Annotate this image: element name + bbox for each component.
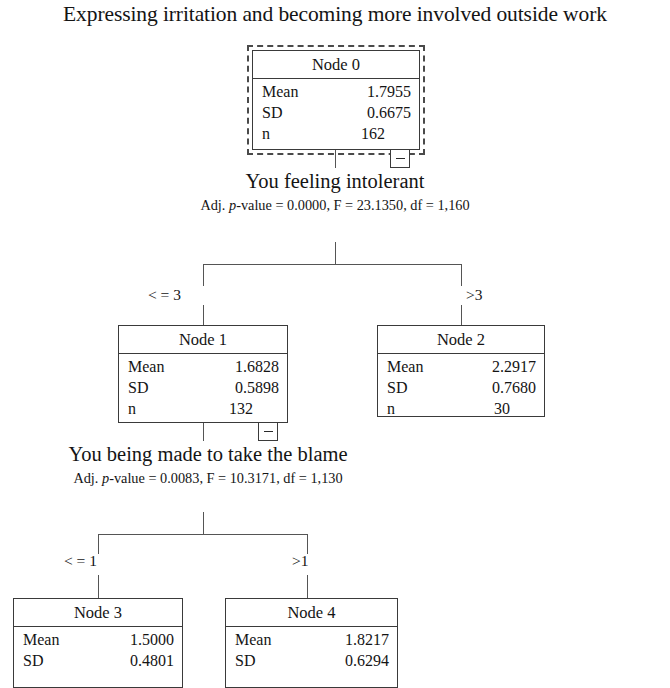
node-4-title: Node 4 — [226, 599, 397, 627]
tree-node-2[interactable]: Node 2 Mean 2.2917 SD 0.7680 n 30 — [377, 325, 545, 417]
node-3-mean-row: Mean 1.5000 — [23, 630, 174, 651]
minus-icon — [396, 158, 405, 159]
page-title: Expressing irritation and becoming more … — [0, 2, 670, 27]
node-1-n-value: 132 — [229, 399, 253, 420]
node-1-sd-row: SD 0.5898 — [128, 378, 279, 399]
connector-split-2-left-drop — [98, 534, 99, 554]
connector-split-2-stem — [203, 512, 204, 534]
node-4-mean-value: 1.8217 — [345, 630, 389, 651]
node-2-sd-row: SD 0.7680 — [387, 378, 536, 399]
connector-split-2-bar — [98, 534, 308, 535]
sd-label: SD — [387, 378, 407, 399]
node-1-stats: Mean 1.6828 SD 0.5898 n 132 — [119, 354, 287, 422]
minus-icon — [264, 431, 273, 432]
node-1-n-row: n 132 — [128, 399, 279, 420]
node-0-n-value: 162 — [361, 124, 385, 145]
node-3-sd-row: SD 0.4801 — [23, 651, 174, 672]
split-1-stats-prefix: Adj. — [200, 197, 229, 213]
node-3-stats: Mean 1.5000 SD 0.4801 — [14, 627, 182, 674]
node-4-stats: Mean 1.8217 SD 0.6294 — [226, 627, 397, 674]
node-0-n-row: n 162 — [262, 124, 411, 145]
node-2-title: Node 2 — [378, 326, 544, 354]
split-2-stats-rest: -value = 0.0083, F = 10.3171, df = 1,130 — [109, 470, 342, 486]
node-2-sd-value: 0.7680 — [492, 378, 536, 399]
connector-to-node-1 — [203, 305, 204, 325]
mean-label: Mean — [235, 630, 271, 651]
split-1-variable: You feeling intolerant — [135, 170, 535, 194]
node-4-sd-row: SD 0.6294 — [235, 651, 389, 672]
connector-node-1-stem — [203, 423, 204, 441]
n-label: n — [128, 399, 136, 420]
node-3-mean-value: 1.5000 — [130, 630, 174, 651]
node-2-mean-value: 2.2917 — [492, 357, 536, 378]
mean-label: Mean — [262, 82, 298, 103]
node-2-n-value: 30 — [494, 399, 510, 420]
connector-to-node-3 — [98, 575, 99, 598]
n-label: n — [262, 124, 270, 145]
split-2-stats: Adj. p-value = 0.0083, F = 10.3171, df =… — [8, 469, 408, 488]
node-2-n-row: n 30 — [387, 399, 536, 420]
connector-split-1-right-drop — [461, 264, 462, 286]
tree-node-0[interactable]: Node 0 Mean 1.7955 SD 0.6675 n 162 — [252, 50, 420, 150]
connector-split-1-bar — [203, 264, 462, 265]
node-4-sd-value: 0.6294 — [345, 651, 389, 672]
node-0-title: Node 0 — [253, 51, 419, 79]
node-0-mean-value: 1.7955 — [367, 82, 411, 103]
node-1-title: Node 1 — [119, 326, 287, 354]
node-3-title: Node 3 — [14, 599, 182, 627]
node-1-mean-row: Mean 1.6828 — [128, 357, 279, 378]
node-2-stats: Mean 2.2917 SD 0.7680 n 30 — [378, 354, 544, 422]
sd-label: SD — [23, 651, 43, 672]
split-1-stats: Adj. p-value = 0.0000, F = 23.1350, df =… — [135, 196, 535, 215]
node-1-sd-value: 0.5898 — [235, 378, 279, 399]
node-0-mean-row: Mean 1.7955 — [262, 82, 411, 103]
branch-label-left-1: < = 3 — [148, 286, 181, 304]
split-1-stats-rest: -value = 0.0000, F = 23.1350, df = 1,160 — [236, 197, 469, 213]
connector-root-stem — [335, 150, 336, 168]
tree-node-3[interactable]: Node 3 Mean 1.5000 SD 0.4801 — [13, 598, 183, 688]
node-0-sd-row: SD 0.6675 — [262, 103, 411, 124]
node-4-mean-row: Mean 1.8217 — [235, 630, 389, 651]
split-2-stats-prefix: Adj. — [73, 470, 102, 486]
split-2-block: You being made to take the blame Adj. p-… — [8, 443, 408, 487]
node-3-sd-value: 0.4801 — [130, 651, 174, 672]
split-1-block: You feeling intolerant Adj. p-value = 0.… — [135, 170, 535, 214]
branch-label-left-2: < = 1 — [64, 552, 97, 570]
sd-label: SD — [262, 103, 282, 124]
connector-split-2-right-drop — [307, 534, 308, 554]
mean-label: Mean — [387, 357, 423, 378]
branch-label-right-1: >3 — [466, 286, 483, 304]
node-0-sd-value: 0.6675 — [367, 103, 411, 124]
connector-split-1-stem — [335, 242, 336, 264]
node-1-collapse-button[interactable] — [258, 423, 278, 441]
connector-to-node-4 — [307, 575, 308, 598]
node-1-mean-value: 1.6828 — [235, 357, 279, 378]
tree-node-1[interactable]: Node 1 Mean 1.6828 SD 0.5898 n 132 — [118, 325, 288, 423]
n-label: n — [387, 399, 395, 420]
connector-split-1-left-drop — [203, 264, 204, 286]
tree-node-4[interactable]: Node 4 Mean 1.8217 SD 0.6294 — [225, 598, 398, 688]
mean-label: Mean — [23, 630, 59, 651]
sd-label: SD — [128, 378, 148, 399]
node-0-stats: Mean 1.7955 SD 0.6675 n 162 — [253, 79, 419, 147]
branch-label-right-2: >1 — [292, 552, 309, 570]
split-2-variable: You being made to take the blame — [8, 443, 408, 467]
connector-to-node-2 — [461, 305, 462, 325]
node-0-collapse-button[interactable] — [390, 150, 410, 168]
mean-label: Mean — [128, 357, 164, 378]
sd-label: SD — [235, 651, 255, 672]
node-2-mean-row: Mean 2.2917 — [387, 357, 536, 378]
